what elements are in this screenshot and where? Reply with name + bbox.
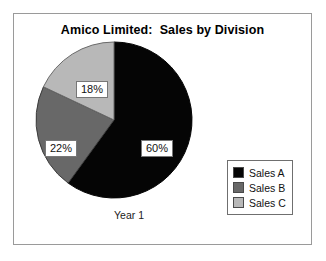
legend-swatch-icon-sales-c (233, 197, 244, 208)
legend-label-sales-a: Sales A (249, 167, 285, 179)
legend: Sales A Sales B Sales C (227, 160, 293, 215)
slice-label-sales-a: 60% (141, 140, 173, 157)
legend-item-sales-a[interactable]: Sales A (233, 165, 286, 180)
legend-swatch-icon-sales-b (233, 182, 244, 193)
legend-label-sales-b: Sales B (249, 182, 285, 194)
pie-chart-graphic (30, 36, 198, 204)
legend-swatch-icon-sales-a (233, 167, 244, 178)
slice-label-sales-b: 22% (45, 140, 77, 157)
chart-frame: Amico Limited: Sales by Division 18% 22%… (13, 13, 312, 245)
legend-item-sales-c[interactable]: Sales C (233, 195, 286, 210)
legend-item-sales-b[interactable]: Sales B (233, 180, 286, 195)
category-axis-label: Year 1 (89, 209, 169, 221)
legend-label-sales-c: Sales C (249, 197, 286, 209)
slice-label-sales-c: 18% (76, 81, 108, 98)
